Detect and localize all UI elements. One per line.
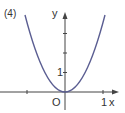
x-axis-label: x — [109, 97, 115, 108]
y-tick-label: 1 — [57, 67, 63, 78]
y-axis-arrow-icon — [63, 12, 68, 19]
x-tick-label: 1 — [101, 97, 107, 108]
figure-label: (4) — [4, 9, 16, 19]
y-axis — [63, 12, 68, 110]
x-axis-arrow-icon — [112, 90, 119, 95]
parabola-figure: (4) y x O 1 1 — [0, 0, 125, 113]
origin-label: O — [52, 97, 61, 108]
y-axis-label: y — [52, 8, 58, 19]
